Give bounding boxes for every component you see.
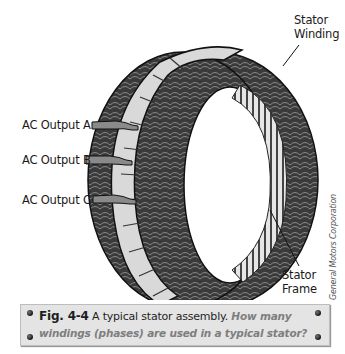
stator-winding-leader xyxy=(283,45,299,66)
caption-title: A typical stator assembly. xyxy=(92,310,228,323)
rivet-icon xyxy=(315,310,321,316)
rivet-icon xyxy=(27,310,33,316)
label-stator-frame-line1: Stator xyxy=(282,268,317,282)
label-ac-output-c: AC Output C xyxy=(22,193,91,207)
caption-line-1: Fig. 4-4 A typical stator assembly. How … xyxy=(39,309,291,323)
caption-fig-number: Fig. 4-4 xyxy=(39,309,89,323)
label-stator-winding: Stator Winding xyxy=(294,13,339,41)
rivet-icon xyxy=(27,334,33,340)
image-credit: General Motors Corporation xyxy=(329,194,338,300)
caption-question-part2: windings (phases) are used in a typical … xyxy=(39,327,307,339)
label-stator-winding-line1: Stator xyxy=(294,13,339,27)
stator-assembly-illustration xyxy=(0,0,345,300)
caption-line-2: windings (phases) are used in a typical … xyxy=(39,327,307,340)
label-stator-winding-line2: Winding xyxy=(294,27,339,41)
rivet-icon xyxy=(315,334,321,340)
figure-caption-box: Fig. 4-4 A typical stator assembly. How … xyxy=(20,304,330,346)
label-stator-frame: Stator Frame xyxy=(282,268,317,296)
caption-question-part1: How many xyxy=(231,310,291,322)
label-stator-frame-line2: Frame xyxy=(282,282,317,296)
label-ac-output-b: AC Output B xyxy=(22,153,91,167)
label-ac-output-a: AC Output A xyxy=(22,118,91,132)
